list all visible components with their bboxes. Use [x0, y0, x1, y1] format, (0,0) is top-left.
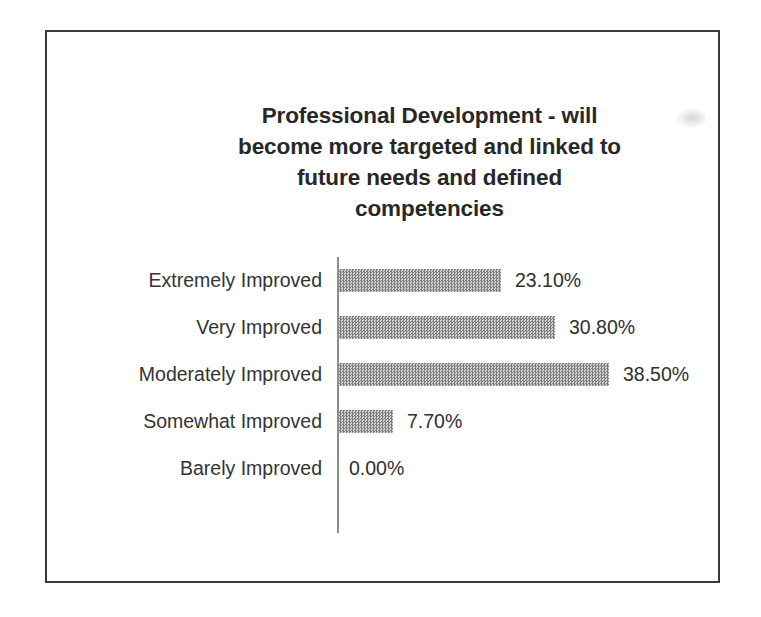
bar-track: 23.10% [339, 257, 722, 304]
value-label-moderately-improved: 38.50% [623, 351, 689, 398]
bar-row: Barely Improved 0.00% [47, 445, 722, 492]
bar-row: Somewhat Improved 7.70% [47, 398, 722, 445]
category-label-very-improved: Very Improved [47, 304, 322, 351]
bar-very-improved [339, 316, 555, 339]
bar-track: 7.70% [339, 398, 722, 445]
bar-track: 30.80% [339, 304, 722, 351]
plot-area: Extremely Improved 23.10% Very Improved … [47, 32, 722, 585]
value-label-barely-improved: 0.00% [349, 445, 404, 492]
bar-track: 38.50% [339, 351, 722, 398]
category-label-extremely-improved: Extremely Improved [47, 257, 322, 304]
value-label-very-improved: 30.80% [569, 304, 635, 351]
category-label-moderately-improved: Moderately Improved [47, 351, 322, 398]
bar-somewhat-improved [339, 410, 393, 433]
bar-track: 0.00% [339, 445, 722, 492]
category-label-somewhat-improved: Somewhat Improved [47, 398, 322, 445]
bar-row: Moderately Improved 38.50% [47, 351, 722, 398]
chart-frame: Professional Development - will become m… [45, 30, 720, 583]
value-label-extremely-improved: 23.10% [515, 257, 581, 304]
bar-extremely-improved [339, 269, 501, 292]
category-label-barely-improved: Barely Improved [47, 445, 322, 492]
bar-row: Very Improved 30.80% [47, 304, 722, 351]
bar-row: Extremely Improved 23.10% [47, 257, 722, 304]
value-label-somewhat-improved: 7.70% [407, 398, 462, 445]
bar-moderately-improved [339, 363, 609, 386]
